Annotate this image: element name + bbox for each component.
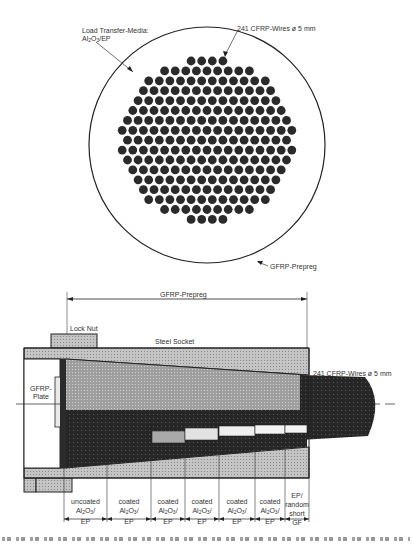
wire-dot — [144, 195, 153, 204]
anchorage-diagram — [0, 0, 412, 547]
wire-dot — [256, 185, 265, 194]
segment-label: coatedAl2O3/EP — [255, 497, 285, 526]
wire-dot — [176, 156, 185, 165]
wire-dot — [128, 166, 137, 175]
wire-dot — [229, 76, 238, 85]
wire-dot — [234, 67, 243, 76]
wire-dot — [219, 156, 228, 165]
wire-dot — [229, 116, 238, 125]
wire-dot — [160, 185, 169, 194]
wire-dot — [240, 136, 249, 145]
wire-dot — [187, 175, 196, 184]
wire-dot — [150, 146, 159, 155]
wire-dot — [192, 166, 201, 175]
wire-dot — [203, 166, 212, 175]
wire-dot — [266, 106, 275, 115]
wire-dot — [139, 126, 148, 135]
wire-dot — [272, 156, 281, 165]
prepreg-dimension-label: GFRP-Prepreg — [160, 291, 207, 299]
wire-dot — [224, 126, 233, 135]
cross-section — [89, 27, 325, 266]
wire-dot — [213, 126, 222, 135]
wire-dot — [250, 116, 259, 125]
wire-dot — [197, 96, 206, 105]
wire-dot — [224, 146, 233, 155]
wire-dot — [261, 156, 270, 165]
wire-dot — [160, 205, 169, 214]
wire-dot — [134, 136, 143, 145]
wire-dot — [266, 126, 275, 135]
wire-dot — [256, 166, 265, 175]
wire-dot — [187, 195, 196, 204]
wire-dot — [166, 136, 175, 145]
wire-dot — [224, 86, 233, 95]
wire-dot — [150, 86, 159, 95]
wire-dot — [277, 166, 286, 175]
wire-dot — [219, 215, 228, 224]
wire-dot — [250, 156, 259, 165]
wire-dot — [128, 146, 137, 155]
wire-dot — [181, 166, 190, 175]
wire-dot — [176, 76, 185, 85]
wire-dot — [118, 146, 127, 155]
wire-bundle — [118, 57, 296, 224]
wire-dot — [208, 76, 217, 85]
wire-dot — [192, 126, 201, 135]
wire-dot — [234, 166, 243, 175]
segment-label: coatedAl2O3/EP — [219, 497, 255, 526]
wire-dot — [240, 76, 249, 85]
wire-dot — [229, 136, 238, 145]
wire-dot — [171, 146, 180, 155]
wire-dot — [282, 136, 291, 145]
wire-dot — [134, 175, 143, 184]
wire-dot — [128, 106, 137, 115]
wire-dot — [171, 86, 180, 95]
wire-dot — [245, 86, 254, 95]
media-label-line2: Al2O3/EP — [82, 35, 149, 44]
wire-dot — [187, 76, 196, 85]
wire-dot — [224, 185, 233, 194]
wire-dot — [245, 126, 254, 135]
wire-dot — [266, 185, 275, 194]
wire-dot — [123, 136, 132, 145]
wire-dot — [219, 116, 228, 125]
wire-dot — [213, 185, 222, 194]
wire-dot — [256, 126, 265, 135]
wire-dot — [166, 76, 175, 85]
wire-dot — [229, 175, 238, 184]
wire-dot — [219, 175, 228, 184]
plate-line2: Plate — [30, 393, 52, 401]
wire-dot — [139, 166, 148, 175]
wire-dot — [240, 156, 249, 165]
wire-dot — [160, 126, 169, 135]
wire-dot — [144, 76, 153, 85]
wire-dot — [208, 195, 217, 204]
segment-label: coatedAl2O3/EP — [107, 497, 151, 526]
wire-dot — [245, 185, 254, 194]
wire-dot — [192, 205, 201, 214]
wire-dot — [272, 136, 281, 145]
wire-dot — [261, 136, 270, 145]
wire-dot — [250, 76, 259, 85]
wire-dot — [197, 76, 206, 85]
wire-dot — [192, 106, 201, 115]
wire-dot — [181, 67, 190, 76]
longitudinal-section — [16, 334, 395, 522]
wire-dot — [213, 166, 222, 175]
wire-dot — [187, 116, 196, 125]
cfrp-wires-label: 241 CFRP-Wires ø 5 mm — [313, 370, 392, 378]
wire-dot — [166, 116, 175, 125]
wire-dot — [181, 146, 190, 155]
lock-nut-label: Lock Nut — [70, 325, 98, 333]
wire-dot — [181, 86, 190, 95]
wire-dot — [266, 86, 275, 95]
wire-dot — [166, 156, 175, 165]
wire-dot — [240, 195, 249, 204]
wire-dot — [139, 146, 148, 155]
wire-dot — [224, 166, 233, 175]
wire-dot — [208, 57, 217, 66]
wire-dot — [160, 166, 169, 175]
wire-dot — [197, 116, 206, 125]
wire-dot — [287, 146, 296, 155]
wire-dot — [250, 96, 259, 105]
